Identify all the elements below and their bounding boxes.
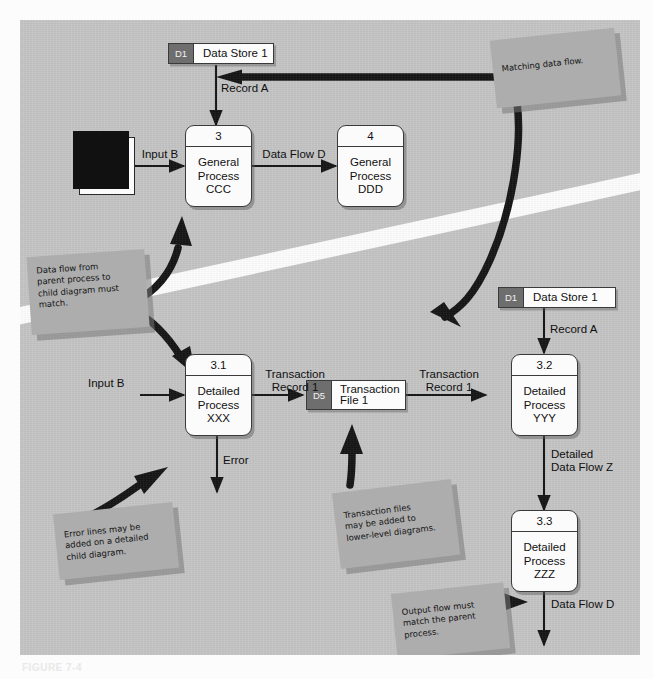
process-4-line2: Process — [350, 170, 392, 184]
process-3-3-number: 3.3 — [512, 511, 577, 532]
entity-2[interactable]: Entity 2 — [79, 137, 135, 195]
process-3-2-number: 3.2 — [512, 355, 577, 376]
process-4-line1: General — [350, 156, 391, 170]
process-3-1-line3: XXX — [207, 412, 230, 426]
flow-label-record-a-child: Record A — [550, 323, 620, 336]
process-3-number: 3 — [186, 126, 251, 147]
entity-label-line2: 2 — [104, 166, 110, 180]
process-3-1-name: Detailed Process XXX — [186, 376, 251, 435]
flow-label-detailed-data-flow-z: Detailed Data Flow Z — [551, 448, 640, 474]
figure-page: D1 Data Store 1 Record A Entity 2 Input … — [0, 0, 653, 679]
note-error-lines: Error lines may be added on a detailed c… — [53, 502, 179, 580]
process-3-1[interactable]: 3.1 Detailed Process XXX — [185, 354, 252, 436]
process-3-1-number: 3.1 — [186, 355, 251, 376]
process-4[interactable]: 4 General Process DDD — [337, 125, 404, 207]
figure-caption: FIGURE 7-4 — [22, 662, 82, 673]
flow-label-error: Error — [223, 454, 283, 467]
process-3-2-line1: Detailed — [523, 385, 565, 399]
note-matching-data-flow: Matching data flow. — [490, 28, 621, 109]
note-parent-child-match: Data flow from parent process to child d… — [26, 249, 149, 335]
process-4-number: 4 — [338, 126, 403, 147]
flow-label-transaction-record-1-a: Transaction Record 1 — [255, 368, 335, 394]
data-store-tag: D1 — [169, 44, 194, 63]
data-store-name: Data Store 1 — [194, 44, 273, 63]
process-3-3-line3: ZZZ — [534, 568, 555, 582]
process-3-3-name: Detailed Process ZZZ — [512, 532, 577, 591]
process-3-2-line2: Process — [524, 399, 566, 413]
process-3-3-line2: Process — [524, 555, 566, 569]
process-3-2-line3: YYY — [533, 412, 556, 426]
data-store-name: Transaction File 1 — [332, 381, 405, 409]
flow-label-transaction-record-1-b: Transaction Record 1 — [409, 368, 489, 394]
flow-label-input-b-parent: Input B — [136, 148, 184, 161]
process-3-line2: Process — [198, 170, 240, 184]
process-3-line3: CCC — [206, 183, 231, 197]
process-3[interactable]: 3 General Process CCC — [185, 125, 252, 207]
data-store-d1-right[interactable]: D1 Data Store 1 — [498, 287, 616, 308]
data-store-tag: D1 — [499, 288, 524, 307]
entity-label-line1: Entity — [93, 153, 122, 167]
flow-label-record-a-top: Record A — [221, 82, 291, 95]
note-output-flow: Output flow must match the parent proces… — [391, 582, 510, 655]
note-transaction-files: Transaction files may be added to lower-… — [332, 479, 460, 569]
process-3-line1: General — [198, 156, 239, 170]
process-4-name: General Process DDD — [338, 147, 403, 206]
process-3-2[interactable]: 3.2 Detailed Process YYY — [511, 354, 578, 436]
data-store-d1-top[interactable]: D1 Data Store 1 — [168, 43, 274, 64]
process-3-3-line1: Detailed — [523, 541, 565, 555]
process-3-1-line2: Process — [198, 399, 240, 413]
flow-label-data-flow-d-child: Data Flow D — [551, 598, 640, 611]
dfd-diagram-panel: D1 Data Store 1 Record A Entity 2 Input … — [20, 20, 640, 655]
process-3-2-name: Detailed Process YYY — [512, 376, 577, 435]
process-4-line3: DDD — [358, 183, 383, 197]
flow-label-data-flow-d-parent: Data Flow D — [254, 148, 334, 161]
process-3-1-line1: Detailed — [197, 385, 239, 399]
flow-label-input-b-child: Input B — [88, 377, 138, 390]
process-3-3[interactable]: 3.3 Detailed Process ZZZ — [511, 510, 578, 592]
data-store-name: Data Store 1 — [524, 288, 615, 307]
process-3-name: General Process CCC — [186, 147, 251, 206]
